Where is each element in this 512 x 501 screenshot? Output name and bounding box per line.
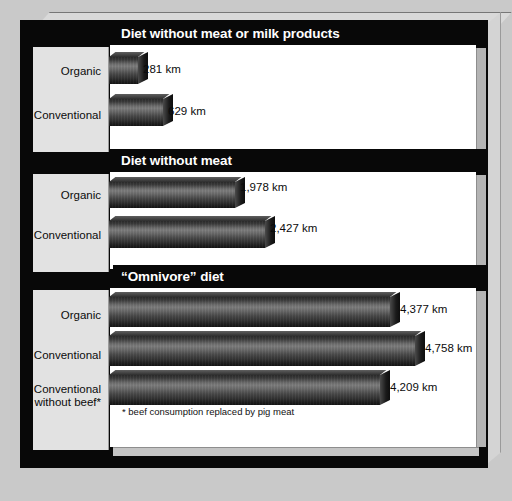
row-label-g2-organic: Organic <box>61 309 101 322</box>
bar-value-g0-organic: 281 km <box>143 63 181 75</box>
bar-body <box>109 182 235 208</box>
bar-texture <box>109 182 235 208</box>
bar-value-g2-organic: 4,377 km <box>400 303 447 315</box>
plot-panel-group-3-bevel-right <box>476 291 486 447</box>
bar-g2-organic <box>109 297 390 327</box>
bar-g2-conventional <box>109 336 415 366</box>
bar-texture <box>109 57 138 84</box>
frame-right-bevel <box>487 12 501 464</box>
row-label-line-1: Conventional <box>34 383 101 395</box>
row-label-line-2: without beef* <box>35 396 102 408</box>
bar-texture <box>109 375 380 405</box>
bar-body <box>109 297 390 327</box>
row-label-g0-conventional: Conventional <box>34 109 101 122</box>
bar-value-g2-conventional: 4,758 km <box>425 342 472 354</box>
bar-value-g2-conventional-without-beef: 4,209 km <box>390 381 437 393</box>
bar-g1-conventional <box>109 221 265 248</box>
section-header-diet-without-meat-or-milk: Diet without meat or milk products <box>113 22 487 44</box>
bar-body <box>109 221 265 248</box>
bar-end-cap <box>390 292 400 327</box>
bar-end-cap <box>415 331 425 366</box>
bar-value-g1-conventional: 2,427 km <box>270 222 317 234</box>
row-label-g2-conventional-without-beef: Conventional without beef* <box>34 383 101 409</box>
row-label-g0-organic: Organic <box>61 65 101 78</box>
bar-g0-organic <box>109 57 138 84</box>
bar-g2-conventional-without-beef <box>109 375 380 405</box>
bar-texture <box>109 221 265 248</box>
row-label-g2-conventional: Conventional <box>34 349 101 362</box>
chart-footnote: * beef consumption replaced by pig meat <box>122 406 294 417</box>
row-label-g1-conventional: Conventional <box>34 229 101 242</box>
bar-texture <box>109 297 390 327</box>
plot-panel-group-2-bevel-right <box>476 175 486 269</box>
bar-body <box>109 336 415 366</box>
plot-panel-group-1-bevel-right <box>476 48 486 149</box>
bar-g0-conventional <box>109 99 163 126</box>
row-label-g1-organic: Organic <box>61 189 101 202</box>
bar-g1-organic <box>109 182 235 208</box>
bar-value-g1-organic: 1,978 km <box>240 181 287 193</box>
bar-texture <box>109 336 415 366</box>
bar-value-g0-conventional: 629 km <box>168 105 206 117</box>
label-column-group-1 <box>33 47 109 152</box>
bar-end-cap <box>380 370 390 405</box>
bar-body <box>109 99 163 126</box>
section-header-omnivore-diet: “Omnivore” diet <box>113 265 487 287</box>
bar-texture <box>109 99 163 126</box>
plot-panel-group-3-bevel-bottom <box>113 447 479 456</box>
bar-body <box>109 375 380 405</box>
bar-body <box>109 57 138 84</box>
section-header-diet-without-meat: Diet without meat <box>113 150 487 171</box>
